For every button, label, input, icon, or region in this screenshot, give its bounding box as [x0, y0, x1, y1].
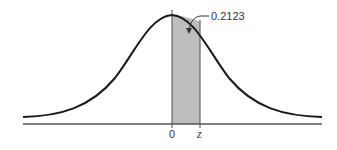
area-value-label: 0.2123: [211, 10, 245, 22]
origin-label: 0: [169, 128, 175, 140]
normal-curve-diagram: 0.2123 0 z: [0, 0, 337, 150]
z-label: z: [196, 127, 202, 141]
